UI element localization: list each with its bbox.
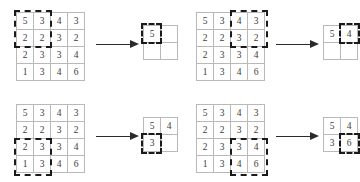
input-cell: 3 bbox=[231, 30, 248, 47]
output-cell: 5 bbox=[144, 26, 161, 43]
arrow-shaft bbox=[96, 44, 132, 45]
table-row: 2 2 3 2 bbox=[17, 30, 85, 47]
input-cell: 2 bbox=[197, 47, 214, 64]
table-row: 2 3 3 4 bbox=[197, 139, 265, 156]
right-arrow-1 bbox=[96, 40, 140, 49]
input-cell: 2 bbox=[17, 30, 34, 47]
input-cell: 5 bbox=[197, 105, 214, 122]
table-row: 5 4 bbox=[324, 118, 358, 135]
input-cell: 3 bbox=[214, 47, 231, 64]
table-row: 1 3 4 6 bbox=[197, 156, 265, 173]
output-cell: 5 bbox=[144, 118, 161, 135]
input-cell: 2 bbox=[197, 30, 214, 47]
panel-top-right: 5 3 4 3 2 2 3 2 2 3 3 4 1 3 4 6 bbox=[180, 0, 358, 90]
input-cell: 1 bbox=[197, 64, 214, 81]
input-cell: 3 bbox=[248, 13, 265, 30]
input-cell: 3 bbox=[34, 139, 51, 156]
output-matrix-1: 5 bbox=[143, 25, 178, 60]
arrow-head bbox=[310, 132, 319, 140]
input-cell: 3 bbox=[214, 105, 231, 122]
input-cell: 3 bbox=[214, 64, 231, 81]
arrow-shaft bbox=[276, 136, 312, 137]
table-row: 5 bbox=[144, 26, 178, 43]
input-cell: 4 bbox=[231, 13, 248, 30]
input-cell: 4 bbox=[68, 47, 85, 64]
input-cell: 2 bbox=[17, 139, 34, 156]
table-row: 5 3 4 3 bbox=[197, 13, 265, 30]
input-cell: 4 bbox=[51, 156, 68, 173]
input-matrix-2: 5 3 4 3 2 2 3 2 2 3 3 4 1 3 4 6 bbox=[196, 12, 265, 81]
table-row: 5 4 bbox=[324, 26, 358, 43]
input-cell: 1 bbox=[17, 64, 34, 81]
right-arrow-2 bbox=[276, 40, 320, 49]
input-cell: 4 bbox=[51, 64, 68, 81]
output-cell: 4 bbox=[161, 118, 178, 135]
input-cell: 3 bbox=[51, 30, 68, 47]
input-cell: 4 bbox=[231, 156, 248, 173]
input-cell: 3 bbox=[51, 47, 68, 64]
input-cell: 2 bbox=[197, 139, 214, 156]
output-cell bbox=[161, 135, 178, 152]
output-cell: 3 bbox=[144, 135, 161, 152]
input-cell: 3 bbox=[214, 13, 231, 30]
output-matrix-4: 5 4 3 6 bbox=[323, 117, 358, 152]
output-cell bbox=[161, 43, 178, 60]
output-cell: 5 bbox=[324, 118, 341, 135]
input-cell: 4 bbox=[68, 139, 85, 156]
arrow-head bbox=[310, 40, 319, 48]
input-cell: 5 bbox=[17, 13, 34, 30]
input-cell: 3 bbox=[34, 64, 51, 81]
table-row: 2 3 3 4 bbox=[17, 47, 85, 64]
output-matrix-2: 5 4 bbox=[323, 25, 358, 60]
input-cell: 3 bbox=[68, 105, 85, 122]
table-row: 5 3 4 3 bbox=[17, 105, 85, 122]
table-row: 5 3 4 3 bbox=[17, 13, 85, 30]
input-cell: 2 bbox=[248, 122, 265, 139]
input-cell: 6 bbox=[68, 156, 85, 173]
input-cell: 3 bbox=[248, 105, 265, 122]
input-cell: 4 bbox=[51, 105, 68, 122]
input-cell: 3 bbox=[231, 122, 248, 139]
input-cell: 2 bbox=[197, 122, 214, 139]
input-cell: 2 bbox=[68, 122, 85, 139]
table-row: 5 4 bbox=[144, 118, 178, 135]
output-cell: 4 bbox=[341, 118, 358, 135]
input-cell: 3 bbox=[51, 122, 68, 139]
input-cell: 3 bbox=[231, 139, 248, 156]
input-cell: 4 bbox=[248, 139, 265, 156]
input-cell: 4 bbox=[248, 47, 265, 64]
input-cell: 3 bbox=[68, 13, 85, 30]
table-row: 2 3 3 4 bbox=[197, 47, 265, 64]
output-cell: 5 bbox=[324, 26, 341, 43]
input-cell: 3 bbox=[34, 105, 51, 122]
input-cell: 2 bbox=[17, 122, 34, 139]
arrow-shaft bbox=[96, 136, 132, 137]
output-cell: 3 bbox=[324, 135, 341, 152]
input-matrix-4: 5 3 4 3 2 2 3 2 2 3 3 4 1 3 4 6 bbox=[196, 104, 265, 173]
output-cell: 6 bbox=[341, 135, 358, 152]
input-cell: 2 bbox=[17, 47, 34, 64]
input-cell: 2 bbox=[34, 122, 51, 139]
arrow-head bbox=[130, 40, 139, 48]
output-cell: 4 bbox=[341, 26, 358, 43]
input-cell: 3 bbox=[34, 13, 51, 30]
table-row: 1 3 4 6 bbox=[17, 156, 85, 173]
output-cell bbox=[324, 43, 341, 60]
table-row: 5 3 4 3 bbox=[197, 105, 265, 122]
input-cell: 5 bbox=[197, 13, 214, 30]
input-cell: 2 bbox=[68, 30, 85, 47]
table-row bbox=[144, 43, 178, 60]
input-cell: 3 bbox=[231, 47, 248, 64]
table-row: 1 3 4 6 bbox=[197, 64, 265, 81]
input-cell: 6 bbox=[248, 156, 265, 173]
panel-bottom-left: 5 3 4 3 2 2 3 2 2 3 3 4 1 3 4 6 bbox=[0, 92, 178, 182]
table-row: 3 bbox=[144, 135, 178, 152]
panel-top-left: 5 3 4 3 2 2 3 2 2 3 3 4 1 3 4 6 bbox=[0, 0, 178, 90]
table-row: 2 2 3 2 bbox=[17, 122, 85, 139]
input-cell: 4 bbox=[51, 13, 68, 30]
input-cell: 5 bbox=[17, 105, 34, 122]
output-cell bbox=[341, 43, 358, 60]
input-cell: 2 bbox=[214, 30, 231, 47]
right-arrow-3 bbox=[96, 132, 140, 141]
